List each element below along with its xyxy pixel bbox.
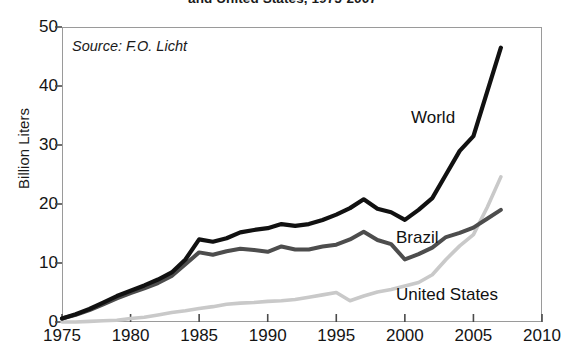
chart-title: and United States, 1975-2007: [0, 0, 565, 6]
series-label-world: World: [411, 108, 455, 128]
y-tick-label-40: 40: [14, 77, 58, 94]
x-tick-label-2005: 2005: [443, 327, 503, 344]
x-tick-label-1975: 1975: [32, 327, 92, 344]
x-tick-label-2000: 2000: [375, 327, 435, 344]
x-tick-label-2010: 2010: [512, 327, 565, 344]
x-tick-label-1990: 1990: [238, 327, 298, 344]
series-label-brazil: Brazil: [396, 228, 439, 248]
x-tick-label-1980: 1980: [101, 327, 161, 344]
y-tick-label-30: 30: [14, 136, 58, 153]
y-tick-label-10: 10: [14, 254, 58, 271]
y-tick-label-20: 20: [14, 195, 58, 212]
y-tick-label-50: 50: [14, 18, 58, 35]
source-annotation: Source: F.O. Licht: [72, 38, 187, 54]
y-axis-tick-labels: 01020304050: [0, 0, 58, 363]
ethanol-production-line-chart: and United States, 1975-2007 Billion Lit…: [0, 0, 565, 363]
plot-area: [62, 27, 542, 322]
x-tick-label-1995: 1995: [306, 327, 366, 344]
series-label-united-states: United States: [396, 285, 498, 305]
x-tick-label-1985: 1985: [169, 327, 229, 344]
